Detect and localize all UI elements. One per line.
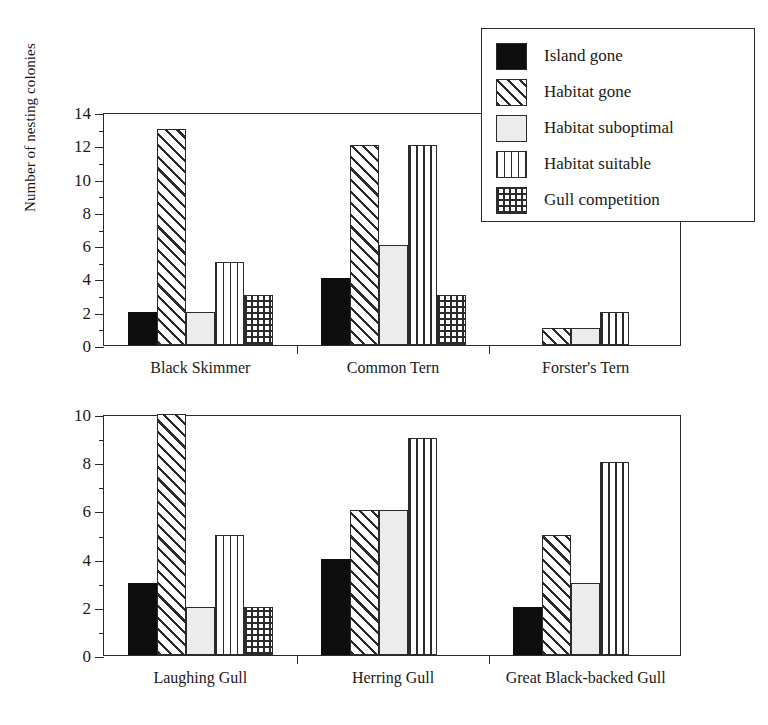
y-tick-label: 8 [83, 204, 92, 224]
legend-label: Island gone [544, 46, 623, 66]
y-tick-label: 12 [74, 137, 91, 157]
x-group-label: Laughing Gull [153, 669, 247, 687]
legend-swatch [496, 151, 527, 178]
bar [186, 607, 215, 655]
y-tick-label: 2 [83, 304, 92, 324]
y-tick-label: 0 [83, 647, 92, 667]
bar [379, 510, 408, 655]
bar-chart-figure: Number of nesting colonies 02468101214Bl… [0, 0, 768, 725]
bar [157, 129, 186, 345]
y-tick-label: 6 [83, 237, 92, 257]
x-tick [297, 345, 298, 354]
bar [215, 262, 244, 345]
y-tick-label: 10 [74, 406, 91, 426]
legend-swatch [496, 115, 527, 142]
bar [186, 312, 215, 345]
panel-bottom-bars [104, 416, 680, 655]
bar [321, 278, 350, 345]
bar [571, 583, 600, 655]
y-tick-major [95, 561, 104, 562]
bar [244, 295, 273, 345]
y-tick-major [95, 416, 104, 417]
legend-label: Gull competition [544, 190, 660, 210]
legend-row: Gull competition [496, 182, 754, 218]
x-group-label: Great Black-backed Gull [506, 669, 666, 687]
legend-row: Habitat gone [496, 74, 754, 110]
bar [244, 607, 273, 655]
y-tick-major [95, 114, 104, 115]
legend-row: Habitat suboptimal [496, 110, 754, 146]
legend-label: Habitat gone [544, 82, 631, 102]
bar [542, 328, 571, 345]
y-tick-major [95, 314, 104, 315]
x-tick [297, 655, 298, 664]
x-tick [489, 655, 490, 664]
bar [408, 145, 437, 345]
y-tick-label: 2 [83, 599, 92, 619]
bar [321, 559, 350, 655]
legend-label: Habitat suboptimal [544, 118, 674, 138]
bar [600, 462, 629, 655]
y-tick-major [95, 512, 104, 513]
y-tick-major [95, 280, 104, 281]
y-tick-label: 14 [74, 104, 91, 124]
bar [128, 583, 157, 655]
legend: Island goneHabitat goneHabitat suboptima… [481, 28, 755, 222]
bar [571, 328, 600, 345]
bar [128, 312, 157, 345]
bar [350, 145, 379, 345]
panel-bottom: 0246810Laughing GullHerring GullGreat Bl… [103, 415, 681, 656]
y-tick-label: 4 [83, 270, 92, 290]
y-tick-label: 4 [83, 551, 92, 571]
legend-row: Habitat suitable [496, 146, 754, 182]
y-tick-major [95, 147, 104, 148]
y-tick-major [95, 347, 104, 348]
x-group-label: Black Skimmer [150, 359, 250, 377]
legend-swatch [496, 187, 527, 214]
bar [437, 295, 466, 345]
y-tick-major [95, 609, 104, 610]
bar [542, 535, 571, 656]
legend-label: Habitat suitable [544, 154, 651, 174]
y-tick-major [95, 464, 104, 465]
y-tick-label: 6 [83, 502, 92, 522]
y-tick-major [95, 247, 104, 248]
legend-row: Island gone [496, 38, 754, 74]
x-group-label: Herring Gull [352, 669, 434, 687]
bar [215, 535, 244, 656]
y-tick-major [95, 657, 104, 658]
y-tick-major [95, 181, 104, 182]
legend-swatch [496, 79, 527, 106]
x-group-label: Common Tern [347, 359, 439, 377]
legend-swatch [496, 43, 527, 70]
y-tick-major [95, 214, 104, 215]
y-axis-title: Number of nesting colonies [22, 0, 39, 212]
x-group-label: Forster's Tern [542, 359, 629, 377]
bar [350, 510, 379, 655]
bar [379, 245, 408, 345]
y-tick-label: 0 [83, 337, 92, 357]
y-tick-label: 10 [74, 171, 91, 191]
bar [157, 414, 186, 655]
bar [600, 312, 629, 345]
x-tick [489, 345, 490, 354]
bar [408, 438, 437, 655]
y-tick-label: 8 [83, 454, 92, 474]
bar [513, 607, 542, 655]
